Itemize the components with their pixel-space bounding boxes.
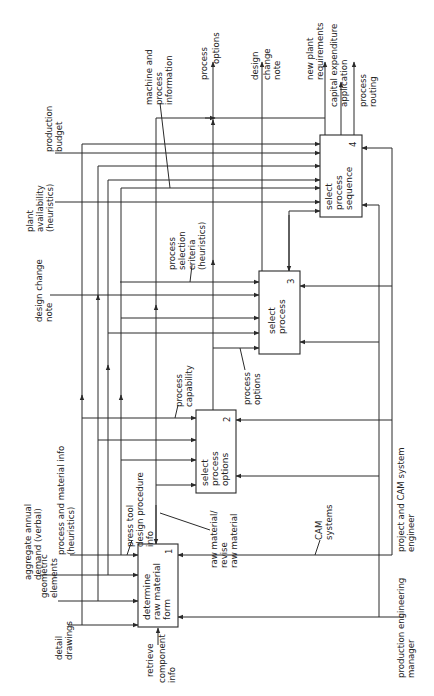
label-process-capability: processcapability	[174, 365, 194, 407]
label-pe-manager: production engineeringmanager	[396, 578, 416, 678]
svg-text:processoptions: processoptions	[242, 371, 262, 405]
svg-text:process and material info(heur: process and material info(heuristics)	[56, 446, 76, 555]
idef0-diagram: determineraw materialform 1 selectproces…	[0, 0, 434, 696]
label-machine-info: machine andprocessinformation	[144, 49, 174, 105]
svg-text:press tooldesign procedureinfo: press tooldesign procedureinfo	[125, 472, 155, 547]
label-production-budget: productionbudget	[44, 106, 64, 152]
svg-text:new plantrequirements: new plantrequirements	[305, 22, 325, 80]
label-process-options-mid: processoptions	[242, 371, 262, 405]
label-new-plant: new plantrequirements	[305, 22, 325, 80]
flow-box3-box4	[289, 211, 320, 271]
svg-text:machine andprocessinformation: machine andprocessinformation	[144, 49, 174, 105]
label-press-tool: press tooldesign procedureinfo	[125, 472, 155, 547]
label-project-engineer: project and CAM systemengineer	[396, 447, 416, 552]
label-capex: capital expenditureapplication	[329, 24, 349, 107]
label-detail-drawings: detaildrawings	[54, 620, 74, 660]
label-selection-criteria: processselectioncriteria(heuristics)	[167, 222, 207, 270]
label-routing: processrouting	[358, 73, 378, 107]
svg-text:design changenote: design changenote	[34, 259, 54, 322]
svg-text:1: 1	[164, 549, 174, 554]
leader-options	[240, 348, 245, 370]
activity-box-4: selectprocesssequence 4	[320, 135, 362, 217]
svg-text:retrievecomponentinfo: retrievecomponentinfo	[145, 634, 177, 683]
label-design-change-note-in: design changenote	[34, 259, 54, 322]
svg-text:3: 3	[286, 279, 296, 284]
svg-text:detaildrawings: detaildrawings	[54, 620, 74, 660]
svg-text:production engineeringmanager: production engineeringmanager	[396, 578, 416, 678]
label-design-change-out: designchangenote	[250, 48, 282, 80]
label-aggregate-demand: aggregate annualdemand (verbal)	[23, 504, 43, 580]
svg-text:2: 2	[222, 417, 232, 422]
svg-text:processrouting: processrouting	[358, 73, 378, 107]
flow-detail-drawings	[68, 144, 320, 625]
activity-box-3: selectprocess 3	[259, 271, 300, 354]
svg-text:productionbudget: productionbudget	[44, 106, 64, 152]
label-retrieve: retrievecomponentinfo	[145, 634, 177, 683]
svg-text:capital expenditureapplication: capital expenditureapplication	[329, 24, 349, 107]
svg-text:raw material/reviseraw materia: raw material/reviseraw material	[209, 511, 239, 568]
svg-text:aggregate annualdemand (verbal: aggregate annualdemand (verbal)	[23, 504, 43, 580]
svg-text:designchangenote: designchangenote	[250, 48, 282, 80]
label-process-options-out: processoptions	[199, 32, 221, 80]
activity-box-2: selectprocessoptions 2	[196, 410, 236, 493]
svg-text:CAMsystems: CAMsystems	[314, 504, 334, 540]
svg-text:processcapability: processcapability	[174, 365, 194, 407]
svg-text:4: 4	[348, 142, 358, 147]
leader-raw-material	[160, 513, 210, 530]
svg-text:processoptions: processoptions	[199, 32, 221, 80]
leader-machine	[160, 103, 170, 188]
label-raw-material: raw material/reviseraw material	[209, 511, 239, 568]
svg-text:plantavailability(heuristics): plantavailability(heuristics)	[25, 184, 55, 232]
leader-cam	[315, 540, 320, 555]
svg-text:project and CAM systemengineer: project and CAM systemengineer	[396, 447, 416, 552]
label-plant-availability: plantavailability(heuristics)	[25, 184, 55, 232]
label-cam-systems: CAMsystems	[314, 504, 334, 540]
label-process-material-info: process and material info(heuristics)	[56, 446, 76, 555]
svg-text:processselectioncriteria(heuri: processselectioncriteria(heuristics)	[167, 222, 207, 270]
flow-process-options	[213, 62, 259, 410]
activity-box-1: determineraw materialform 1	[138, 544, 178, 627]
